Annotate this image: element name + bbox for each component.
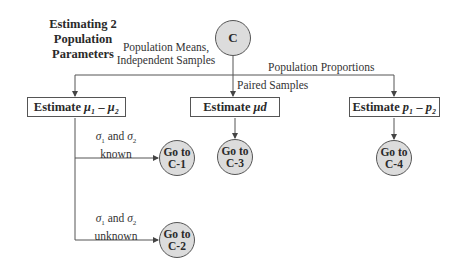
branch-label-proportions: Population Proportions [268,61,374,74]
condition-unknown-text: unknown [80,230,152,243]
box-prefix: Estimate [203,100,250,115]
box-estimate-mu1-mu2: Estimate μ₁ – μ₂ [27,97,126,117]
goto-node-c2: Go to C-2 [159,222,195,258]
condition-known: σ1 and σ2 known [80,130,152,161]
box-symbol: μd [254,100,267,115]
box-estimate-p1-p2: Estimate p₁ – p₂ [349,97,440,117]
goto-line2: C-3 [226,157,244,169]
branch-label-means: Population Means, Independent Samples [100,41,232,67]
goto-line1: Go to [163,146,190,158]
condition-unknown: σ1 and σ2 unknown [80,212,152,243]
branch-label-paired: Paired Samples [237,79,308,92]
and-text: and [105,130,127,142]
box-estimate-mud: Estimate μd [190,97,280,117]
box-prefix: Estimate [353,100,400,115]
sigma-1: σ1 [96,130,105,142]
goto-line1: Go to [163,228,190,240]
goto-line2: C-4 [385,158,403,170]
branch-label-means-line1: Population Means, [100,41,232,54]
sigma-2: σ2 [127,212,136,224]
box-symbol: μ₁ – μ₂ [84,100,119,115]
and-text: and [105,212,127,224]
box-symbol: p₁ – p₂ [403,100,437,115]
box-prefix: Estimate [34,100,81,115]
goto-line1: Go to [380,146,407,158]
goto-line2: C-1 [168,158,186,170]
goto-line2: C-2 [168,240,186,252]
goto-node-c3: Go to C-3 [217,139,253,175]
sigma-1: σ1 [96,212,105,224]
goto-line1: Go to [221,145,248,157]
branch-label-means-line2: Independent Samples [100,54,232,67]
sigma-2: σ2 [127,130,136,142]
goto-node-c1: Go to C-1 [159,140,195,176]
goto-node-c4: Go to C-4 [376,140,412,176]
condition-known-text: known [80,148,152,161]
